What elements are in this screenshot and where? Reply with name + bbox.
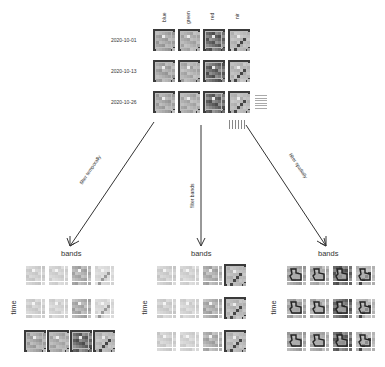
raster-tile [285,264,307,286]
raster-tile [308,297,330,319]
raster-tile [178,330,200,352]
raster-tile [354,330,376,352]
raster-tile [93,330,115,352]
raster-tile [354,297,376,319]
raster-tile [224,264,246,286]
raster-tile [201,297,223,319]
raster-tile [155,264,177,286]
raster-tile [93,297,115,319]
raster-tile [178,264,200,286]
raster-tile [70,330,92,352]
raster-tile [47,264,69,286]
panel-3-time-label: time [269,300,278,314]
raster-tile [224,297,246,319]
raster-tile [308,330,330,352]
raster-tile [24,264,46,286]
panel-1-time-label: time [9,300,18,314]
raster-tile [285,330,307,352]
arrow-filter-spatially [246,125,326,246]
raster-tile [24,297,46,319]
arrow-label-filter-bands: filter bands [189,184,195,208]
raster-tile [155,330,177,352]
panel-3-title: bands [318,249,338,258]
raster-tile [331,330,353,352]
raster-tile [331,297,353,319]
raster-tile [331,264,353,286]
raster-tile [47,330,69,352]
raster-tile [24,330,46,352]
panel-2-time-label: time [140,300,149,314]
raster-tile [308,264,330,286]
raster-tile [285,297,307,319]
raster-tile [224,330,246,352]
raster-tile [354,264,376,286]
panel-1-title: bands [61,249,81,258]
raster-tile [47,297,69,319]
raster-tile [201,264,223,286]
raster-tile [155,297,177,319]
raster-tile [201,330,223,352]
raster-tile [178,297,200,319]
raster-tile [70,297,92,319]
raster-tile [93,264,115,286]
panel-2-title: bands [191,249,211,258]
raster-tile [70,264,92,286]
